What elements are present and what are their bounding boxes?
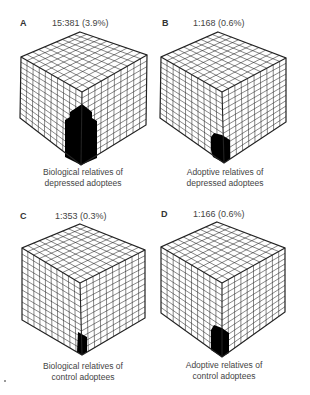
panel-letter: C <box>20 211 27 221</box>
caption-line-2: depressed adoptees <box>28 178 138 189</box>
panel-letter: B <box>162 18 169 28</box>
cube-diagrams <box>0 0 310 395</box>
caption-line-2: control adoptees <box>28 372 138 383</box>
panel-letter: D <box>161 209 168 219</box>
caption-line-2: control adoptees <box>169 371 279 382</box>
caption-line-1: Adoptive relatives of <box>169 360 279 371</box>
panel-letter: A <box>20 18 27 28</box>
panel-ratio: 1:353 (0.3%) <box>55 211 107 221</box>
caption-line-1: Biological relatives of <box>28 167 138 178</box>
panel-caption: Adoptive relatives of depressed adoptees <box>170 167 280 189</box>
stray-mark <box>4 380 6 382</box>
caption-line-2: depressed adoptees <box>170 178 280 189</box>
panel-caption: Adoptive relatives of control adoptees <box>169 360 279 382</box>
caption-line-1: Adoptive relatives of <box>170 167 280 178</box>
caption-line-1: Biological relatives of <box>28 361 138 372</box>
panel-ratio: 1:166 (0.6%) <box>193 209 245 219</box>
panel-caption: Biological relatives of control adoptees <box>28 361 138 383</box>
panel-caption: Biological relatives of depressed adopte… <box>28 167 138 189</box>
panel-ratio: 15:381 (3.9%) <box>52 18 109 28</box>
panel-ratio: 1:168 (0.6%) <box>193 18 245 28</box>
